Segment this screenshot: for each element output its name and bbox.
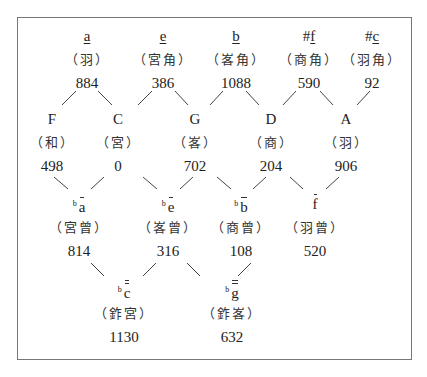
cents-value: 814 <box>39 242 119 260</box>
note-label: ba <box>39 195 119 213</box>
cents-value: 1088 <box>196 74 276 92</box>
cents-value: 1130 <box>84 328 164 346</box>
cents-value: 702 <box>155 157 235 175</box>
flat-sign: b <box>118 285 122 294</box>
role-label: （宮曾） <box>39 219 119 237</box>
node-C: C （宮） 0 <box>78 110 158 175</box>
role-label: （宮） <box>78 134 158 152</box>
cents-value: 0 <box>78 157 158 175</box>
note-label: G <box>155 110 235 128</box>
flat-sign: b <box>234 199 238 208</box>
cents-value: 92 <box>332 74 412 92</box>
role-label: （商） <box>231 134 311 152</box>
role-label: （商曾） <box>201 219 281 237</box>
role-label: （羽） <box>47 51 127 69</box>
note-label: be <box>128 195 208 213</box>
node-f-comma: f （羽曾） 520 <box>275 195 355 260</box>
role-label: （宮角） <box>123 51 203 69</box>
flat-sign: b <box>162 199 166 208</box>
cents-value: 520 <box>275 242 355 260</box>
note-label: A <box>306 110 386 128</box>
node-g-flat-double-comma: bg （鈼峉） 632 <box>192 281 272 346</box>
role-label: （鈼峉） <box>192 305 272 323</box>
note-label: #c <box>332 27 412 45</box>
note-label: f <box>275 195 355 213</box>
role-label: （鈼宮） <box>84 305 164 323</box>
note-label: bc <box>84 281 164 299</box>
note-label: bb <box>201 195 281 213</box>
role-label: （羽） <box>306 134 386 152</box>
node-D: D （商） 204 <box>231 110 311 175</box>
role-label: （峉曾） <box>128 219 208 237</box>
node-G: G （峉） 702 <box>155 110 235 175</box>
flat-sign: b <box>73 199 77 208</box>
node-a: a （羽） 884 <box>47 27 127 92</box>
node-c-flat-double-comma: bc （鈼宮） 1130 <box>84 281 164 346</box>
node-b-flat-comma: bb （商曾） 108 <box>201 195 281 260</box>
node-e-flat-comma: be （峉曾） 316 <box>128 195 208 260</box>
note-label: a <box>47 27 127 45</box>
role-label: （羽角） <box>332 51 412 69</box>
note-label: C <box>78 110 158 128</box>
cents-value: 632 <box>192 328 272 346</box>
node-c-sharp: #c （羽角） 92 <box>332 27 412 92</box>
role-label: （羽曾） <box>275 219 355 237</box>
node-A: A （羽） 906 <box>306 110 386 175</box>
role-label: （峉角） <box>196 51 276 69</box>
cents-value: 108 <box>201 242 281 260</box>
note-label: e <box>123 27 203 45</box>
cents-value: 204 <box>231 157 311 175</box>
cents-value: 884 <box>47 74 127 92</box>
node-e: e （宮角） 386 <box>123 27 203 92</box>
note-label: bg <box>192 281 272 299</box>
flat-sign: b <box>225 285 229 294</box>
cents-value: 906 <box>306 157 386 175</box>
note-label: D <box>231 110 311 128</box>
cents-value: 316 <box>128 242 208 260</box>
node-a-flat-comma: ba （宮曾） 814 <box>39 195 119 260</box>
cents-value: 386 <box>123 74 203 92</box>
note-label: b <box>196 27 276 45</box>
node-b: b （峉角） 1088 <box>196 27 276 92</box>
role-label: （峉） <box>155 134 235 152</box>
